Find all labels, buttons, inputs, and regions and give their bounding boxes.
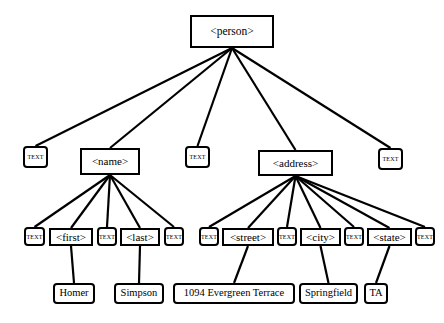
tree-edge-name-to-last [110,175,140,228]
tree-edge-name-to-t6 [110,175,174,227]
tree-node-address: <address> [258,150,333,176]
tree-edge-first-to-homer [71,246,74,283]
tree-node-label: <address> [273,158,318,169]
tree-node-label: <street> [230,232,266,243]
tree-node-sfield: Springfield [299,283,358,304]
tree-node-last: <last> [120,228,160,246]
tree-node-person: <person> [190,15,274,48]
tree-node-t1: TEXT [23,146,48,168]
tree-node-label: <state> [373,232,406,243]
tree-edge-address-to-t7 [209,176,296,227]
tree-node-terrace: 1094 Evergreen Terrace [173,283,295,304]
tree-node-t5: TEXT [97,227,117,246]
tree-edge-address-to-city [296,176,321,228]
tree-node-label: TA [369,288,382,299]
tree-edge-address-to-street [248,176,296,228]
tree-node-label: TEXT [99,234,115,240]
tree-node-label: TEXT [189,154,205,160]
tree-node-t2: TEXT [185,146,210,168]
tree-node-label: <last> [126,232,154,243]
tree-edge-name-to-first [71,175,110,228]
tree-node-t3: TEXT [378,148,403,170]
tree-edge-address-to-t10 [296,176,426,227]
tree-edge-address-to-t9 [296,176,355,227]
tree-node-first: <first> [49,228,93,246]
tree-node-label: <city> [306,232,335,243]
tree-edge-street-to-terrace [234,246,248,283]
tree-node-ta: TA [364,283,388,304]
tree-edge-address-to-t8 [287,176,296,227]
tree-node-t4: TEXT [24,227,45,246]
tree-node-label: <person> [210,26,254,38]
tree-node-label: 1094 Evergreen Terrace [184,288,284,299]
tree-node-state: <state> [367,228,412,246]
tree-node-t8: TEXT [277,227,297,246]
tree-node-city: <city> [300,228,341,246]
tree-node-t9: TEXT [344,227,364,246]
tree-node-label: TEXT [382,156,398,162]
tree-node-label: Simpson [121,288,158,299]
tree-node-street: <street> [222,228,274,246]
tree-node-label: TEXT [417,234,433,240]
tree-edge-person-to-t3 [232,48,391,148]
tree-node-simpson: Simpson [114,283,164,304]
tree-edge-address-to-state [296,176,390,228]
tree-edge-person-to-address [232,48,296,150]
tree-edge-city-to-sfield [321,246,329,283]
tree-node-name: <name> [80,148,140,175]
tree-edge-person-to-t1 [36,48,233,146]
tree-node-t10: TEXT [415,227,435,246]
tree-node-label: TEXT [279,234,295,240]
tree-diagram-canvas: <person>TEXT<name>TEXT<address>TEXTTEXT<… [0,0,444,323]
tree-node-label: TEXT [201,234,217,240]
tree-node-t6: TEXT [164,227,184,246]
tree-node-t7: TEXT [199,227,219,246]
tree-node-label: <name> [92,156,128,167]
tree-edge-last-to-simpson [139,246,140,283]
tree-edge-person-to-t2 [198,48,233,146]
tree-edge-name-to-t5 [107,175,110,227]
tree-edge-person-to-name [110,48,232,148]
tree-node-label: TEXT [166,234,182,240]
tree-edge-name-to-t4 [35,175,111,227]
tree-node-label: <first> [56,232,86,243]
tree-node-label: TEXT [27,154,43,160]
tree-node-label: TEXT [26,234,42,240]
tree-node-label: TEXT [346,234,362,240]
tree-edge-state-to-ta [376,246,390,283]
tree-node-label: Springfield [305,288,352,299]
tree-node-label: Homer [59,288,88,299]
tree-node-homer: Homer [53,283,95,304]
